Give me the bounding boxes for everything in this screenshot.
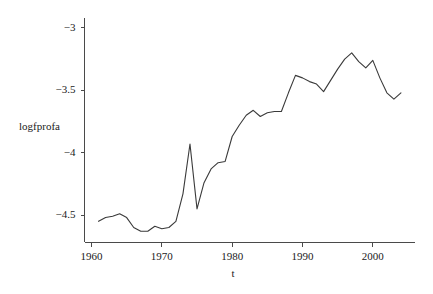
x-tick-label: 2000	[362, 250, 385, 262]
y-tick-label: −4	[64, 146, 76, 158]
x-tick-label: 1970	[151, 250, 174, 262]
y-tick-label: −3.5	[56, 83, 76, 95]
x-tick-label: 1980	[221, 250, 244, 262]
x-axis-title: t	[231, 267, 234, 279]
y-tick-label: −3	[64, 21, 76, 33]
x-tick-label: 1960	[81, 250, 104, 262]
x-axis-ticks: 19601970198019902000	[81, 243, 385, 262]
x-tick-label: 1990	[291, 250, 314, 262]
line-chart-canvas: −3−3.5−4−4.5 19601970198019902000 logfpr…	[0, 0, 433, 294]
data-series-line-logfprofa	[99, 53, 401, 231]
y-tick-label: −4.5	[56, 208, 76, 220]
chart-figure: −3−3.5−4−4.5 19601970198019902000 logfpr…	[0, 0, 433, 294]
y-axis-title: logfprofa	[19, 120, 60, 132]
axes	[85, 18, 416, 243]
